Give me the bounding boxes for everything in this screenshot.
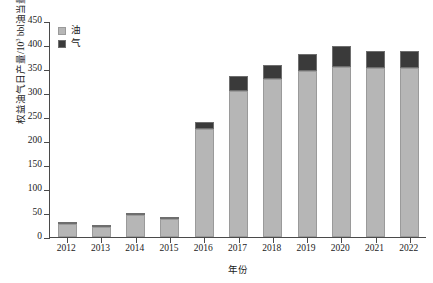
x-tick-label: 2022: [389, 243, 429, 253]
bar-2020: [332, 46, 351, 237]
bar-segment-gas: [195, 122, 214, 129]
y-tick-label: 350: [28, 63, 42, 73]
y-tick-mark: [44, 22, 50, 23]
bar-segment-gas: [298, 54, 317, 72]
legend-item-gas: 气: [58, 37, 81, 50]
bar-2014: [126, 213, 145, 237]
y-tick-label: 300: [28, 87, 42, 97]
bar-2019: [298, 54, 317, 237]
bar-segment-oil: [160, 219, 179, 237]
y-tick-mark: [44, 238, 50, 239]
y-tick-label: 150: [28, 159, 42, 169]
y-tick-label: 200: [28, 135, 42, 145]
bar-2021: [366, 51, 385, 237]
y-axis-title-prefix: 权益油气日产量/10: [16, 42, 26, 124]
plot-area: 050100150200250300350400450: [49, 22, 426, 238]
bar-segment-oil: [229, 91, 248, 237]
y-tick-mark: [44, 94, 50, 95]
legend-item-oil: 油: [58, 24, 81, 37]
y-axis-title-exponent: 3: [14, 39, 21, 42]
y-tick-label: 0: [37, 231, 42, 241]
y-tick-mark: [44, 190, 50, 191]
bar-segment-oil: [298, 71, 317, 237]
y-tick-mark: [44, 118, 50, 119]
y-tick-mark: [44, 166, 50, 167]
y-tick-label: 450: [28, 15, 42, 25]
legend-swatch-oil-icon: [58, 27, 66, 35]
bar-segment-oil: [195, 129, 214, 237]
x-axis-labels: 2012201320142015201620172018201920202021…: [49, 243, 426, 259]
y-tick-mark: [44, 214, 50, 215]
y-tick-label: 100: [28, 183, 42, 193]
y-axis-title-suffix: bbl油当量: [16, 0, 26, 39]
bar-2017: [229, 76, 248, 237]
y-tick-mark: [44, 46, 50, 47]
bar-segment-oil: [400, 68, 419, 237]
chart-legend: 油 气: [58, 24, 81, 50]
bar-segment-oil: [366, 68, 385, 237]
bar-segment-oil: [332, 67, 351, 237]
chart-container: 权益油气日产量/103 bbl油当量 050100150200250300350…: [0, 0, 433, 283]
bar-segment-oil: [126, 215, 145, 237]
legend-label-gas: 气: [71, 37, 81, 50]
bars-layer: [50, 22, 426, 237]
y-axis-title: 权益油气日产量/103 bbl油当量: [13, 0, 27, 145]
y-tick-label: 250: [28, 111, 42, 121]
bar-2015: [160, 217, 179, 237]
bar-segment-gas: [229, 76, 248, 90]
y-tick-label: 400: [28, 39, 42, 49]
y-tick-label: 50: [33, 207, 43, 217]
y-tick-mark: [44, 142, 50, 143]
x-axis-title: 年份: [49, 262, 426, 276]
bar-2018: [263, 65, 282, 237]
bar-segment-gas: [400, 51, 419, 68]
bar-2013: [92, 225, 111, 237]
bar-2016: [195, 122, 214, 237]
bar-segment-oil: [58, 224, 77, 237]
legend-label-oil: 油: [71, 24, 81, 37]
bar-segment-gas: [263, 65, 282, 78]
bar-segment-gas: [366, 51, 385, 68]
y-tick-mark: [44, 70, 50, 71]
bar-segment-gas: [332, 46, 351, 66]
bar-2012: [58, 222, 77, 237]
legend-swatch-gas-icon: [58, 40, 66, 48]
bar-2022: [400, 51, 419, 237]
bar-segment-oil: [263, 79, 282, 237]
bar-segment-oil: [92, 227, 111, 237]
